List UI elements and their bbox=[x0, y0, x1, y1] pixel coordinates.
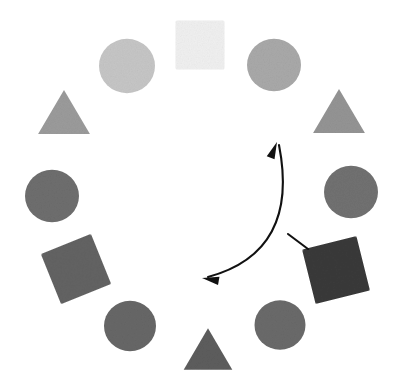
circle-upper-left bbox=[99, 39, 155, 93]
arrowhead-left-icon bbox=[202, 277, 219, 285]
circle-left bbox=[25, 170, 79, 222]
triangle-upper-right bbox=[313, 89, 365, 133]
circle-lower-right bbox=[255, 300, 306, 349]
curved-double-arrow bbox=[208, 145, 283, 277]
annotation-group bbox=[202, 142, 308, 285]
shape-ring-group bbox=[25, 21, 378, 370]
scene-canvas bbox=[0, 0, 403, 388]
circle-upper-right bbox=[247, 39, 301, 91]
square-top bbox=[176, 21, 225, 70]
triangle-upper-left bbox=[38, 90, 90, 134]
arrowhead-up-icon bbox=[267, 142, 277, 159]
arc-tick-mark bbox=[288, 234, 308, 249]
shapes-svg bbox=[0, 0, 403, 388]
circle-lower-left bbox=[104, 301, 156, 351]
circle-right bbox=[324, 166, 378, 218]
square-lower-right bbox=[302, 236, 370, 304]
square-lower-left bbox=[41, 234, 111, 304]
triangle-bottom bbox=[184, 328, 233, 369]
